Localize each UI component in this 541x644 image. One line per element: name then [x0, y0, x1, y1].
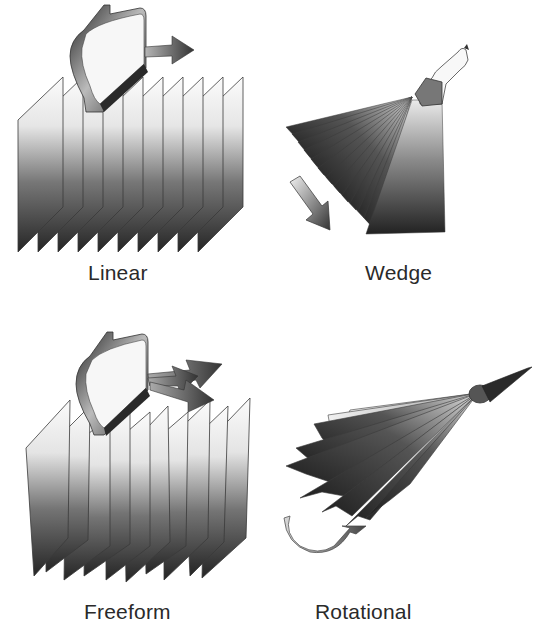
translation-arrow-icon	[145, 36, 194, 64]
panel-linear: Linear	[0, 0, 270, 300]
image-slices	[26, 398, 250, 582]
rotational-sweep-illustration	[270, 320, 541, 644]
caption-freeform: Freeform	[84, 600, 171, 624]
panel-rotational: Rotational	[270, 320, 541, 644]
wedge-sweep-illustration	[270, 0, 541, 300]
panel-wedge: Wedge	[270, 0, 541, 300]
rotation-arrow-icon	[284, 516, 366, 553]
tilt-arrow-icon	[290, 176, 330, 230]
image-slices	[286, 393, 478, 526]
probe-icon	[469, 367, 532, 403]
caption-linear: Linear	[88, 261, 148, 285]
image-slices	[286, 97, 445, 234]
multi-direction-arrows-icon	[148, 360, 222, 412]
freeform-sweep-illustration	[0, 320, 270, 644]
image-slices	[18, 77, 243, 252]
caption-rotational: Rotational	[315, 600, 412, 624]
linear-sweep-illustration	[0, 0, 270, 300]
caption-wedge: Wedge	[365, 261, 432, 285]
probe-icon	[415, 44, 469, 106]
panel-freeform: Freeform	[0, 320, 270, 644]
